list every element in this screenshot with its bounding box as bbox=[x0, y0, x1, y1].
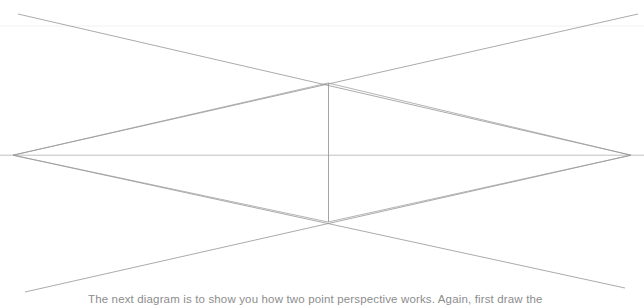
diagram-page: The next diagram is to show you how two … bbox=[0, 0, 644, 305]
upper-corner-to-right-vp-line bbox=[328, 83, 631, 155]
two-point-perspective-diagram bbox=[0, 0, 644, 305]
bottom-right-to-left-vp-line bbox=[13, 155, 625, 288]
lower-corner-to-right-vp-line bbox=[328, 155, 631, 222]
lower-corner-to-left-vp-line bbox=[13, 155, 328, 222]
upper-corner-to-left-vp-line bbox=[13, 83, 328, 155]
